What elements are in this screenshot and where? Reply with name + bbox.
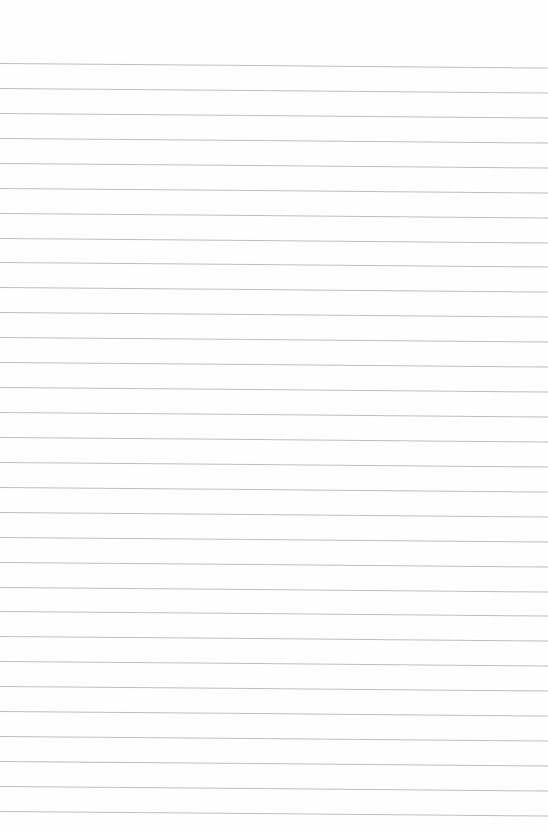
ruled-line (0, 611, 548, 616)
ruled-line (0, 412, 548, 417)
ruled-line (0, 287, 548, 292)
ruled-line (0, 213, 548, 218)
ruled-line (0, 711, 548, 716)
ruled-line (0, 188, 548, 193)
ruled-line (0, 736, 548, 741)
ruled-line (0, 262, 548, 267)
ruled-line (0, 138, 548, 143)
ruled-line (0, 387, 548, 392)
ruled-line (0, 312, 548, 317)
ruled-line (0, 63, 548, 68)
ruled-line (0, 562, 548, 567)
ruled-line (0, 786, 548, 791)
ruled-line (0, 462, 548, 467)
ruled-line (0, 113, 548, 118)
ruled-line (0, 337, 548, 342)
ruled-line (0, 537, 548, 542)
ruled-line (0, 587, 548, 592)
ruled-line (0, 636, 548, 641)
ruled-line (0, 238, 548, 243)
ruled-line (0, 686, 548, 691)
ruled-line (0, 88, 548, 93)
ruled-line (0, 437, 548, 442)
ruled-line (0, 761, 548, 766)
lined-paper (0, 0, 548, 832)
ruled-line (0, 487, 548, 492)
ruled-line (0, 512, 548, 517)
ruled-line (0, 811, 548, 816)
ruled-line (0, 661, 548, 666)
ruled-line (0, 163, 548, 168)
ruled-line (0, 362, 548, 367)
